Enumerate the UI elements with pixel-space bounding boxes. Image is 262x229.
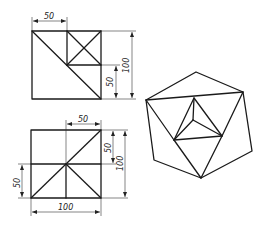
top-view-lower-diagonal (66, 164, 101, 198)
dimension-top-width-50: 50 (66, 115, 101, 130)
dimension-label: 50 (104, 143, 113, 153)
dimension-label: 100 (116, 156, 125, 171)
dimension-label: 100 (58, 203, 73, 212)
dimension-label: 100 (122, 58, 131, 73)
dimension-front-height-100: 100 (122, 32, 132, 98)
isometric-inner-edge-left (174, 120, 193, 140)
dimension-top-width-100: 100 (32, 203, 100, 212)
dimension-label: 50 (78, 115, 88, 124)
dimension-label: 50 (44, 12, 54, 21)
front-view: 50 50 100 (32, 12, 136, 99)
dimension-label: 50 (13, 178, 22, 188)
dimension-front-width-50: 50 (32, 12, 67, 31)
isometric-edge-right-inner (222, 92, 243, 136)
isometric-inner-edge-right (193, 120, 222, 136)
isometric-inner-triangle (174, 98, 222, 140)
dimension-label: 50 (106, 77, 115, 87)
dimension-front-height-50: 50 (106, 66, 116, 98)
top-view: 50 50 100 50 100 (13, 115, 128, 216)
isometric-edge-right-bottom (201, 136, 222, 178)
dimension-top-height-50-left: 50 (13, 165, 22, 197)
dimension-top-height-50-right: 50 (104, 131, 113, 163)
drawing-canvas: 50 50 100 50 (0, 0, 262, 229)
isometric-view (146, 72, 252, 178)
isometric-outline (146, 72, 252, 178)
isometric-inner-edge-top (193, 98, 194, 120)
dimension-top-height-100-right: 100 (116, 131, 125, 197)
